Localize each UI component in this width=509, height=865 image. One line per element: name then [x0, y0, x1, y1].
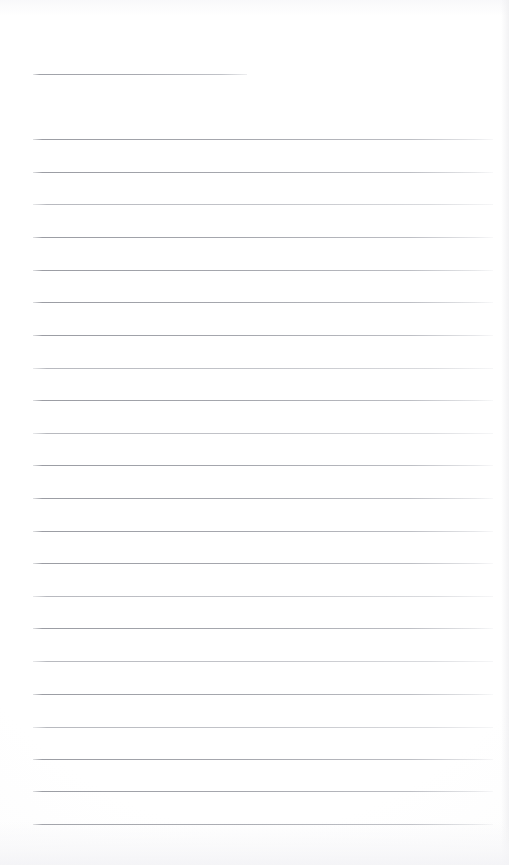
ruled-line: [33, 400, 493, 401]
ruled-line: [33, 270, 493, 271]
ruled-line: [33, 139, 493, 140]
ruled-line: [33, 335, 493, 336]
ruled-line: [33, 563, 493, 564]
ruled-line: [33, 302, 493, 303]
ruled-line: [33, 465, 493, 466]
notepad-page: [0, 0, 509, 865]
ruled-line: [33, 759, 493, 760]
title-underline-rule: [33, 74, 247, 75]
ruled-line: [33, 204, 493, 205]
ruled-line: [33, 172, 493, 173]
ruled-line: [33, 727, 493, 728]
ruled-line: [33, 694, 493, 695]
ruled-line: [33, 596, 493, 597]
ruled-line: [33, 433, 493, 434]
ruled-line: [33, 237, 493, 238]
ruled-line: [33, 368, 493, 369]
ruled-line: [33, 791, 493, 792]
ruled-line: [33, 498, 493, 499]
ruled-line: [33, 824, 493, 825]
page-right-edge-shading: [501, 0, 509, 865]
page-bottom-shading: [0, 821, 509, 865]
page-top-shading: [0, 0, 509, 16]
ruled-line: [33, 661, 493, 662]
ruled-line: [33, 531, 493, 532]
ruled-line: [33, 628, 493, 629]
